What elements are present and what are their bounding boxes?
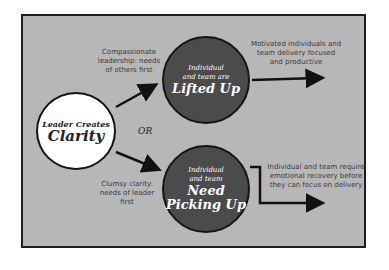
arrow-to-motivated [252,78,318,80]
compassionate-label: Compassionate leadership: needs of other… [96,48,162,75]
arrow-to-picking-up [116,152,155,168]
motivated-outcome: Motivated individuals and team delivery … [250,40,342,67]
clumsy-label: Clumsy clarity: needs of leader first [92,180,162,207]
picking-up-circle: Individual and team Need Picking Up [162,145,250,233]
lifted-up-circle: Individual and team are Lifted Up [162,36,250,124]
leader-creates-clarity-circle: Leader Creates Clarity [36,92,116,170]
recovery-outcome: Individual and team require emotional re… [267,163,365,190]
arrow-to-lifted-up [116,87,152,107]
or-label: OR [138,126,152,136]
